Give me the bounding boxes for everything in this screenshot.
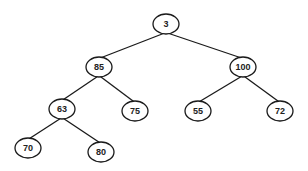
node-label: 55 bbox=[193, 106, 203, 116]
node-label: 3 bbox=[163, 19, 168, 29]
edge-n3-n85 bbox=[99, 33, 166, 59]
tree-node: 72 bbox=[267, 101, 293, 121]
edge-n63-n70 bbox=[28, 118, 62, 140]
edges-layer bbox=[28, 33, 280, 144]
edge-n63-n80 bbox=[62, 118, 101, 144]
tree-node: 55 bbox=[185, 101, 211, 121]
tree-node: 70 bbox=[15, 138, 41, 158]
binary-tree-diagram: 385100637555727080 bbox=[0, 0, 308, 171]
tree-node: 63 bbox=[49, 99, 75, 119]
node-label: 72 bbox=[275, 106, 285, 116]
edge-n85-n63 bbox=[62, 76, 99, 101]
tree-node: 75 bbox=[122, 101, 148, 121]
node-label: 70 bbox=[23, 143, 33, 153]
edge-n100-n72 bbox=[243, 76, 280, 103]
node-label: 63 bbox=[57, 104, 67, 114]
tree-node: 3 bbox=[153, 14, 179, 34]
tree-node: 80 bbox=[88, 142, 114, 162]
edge-n100-n55 bbox=[198, 76, 243, 103]
edge-n3-n100 bbox=[166, 33, 243, 59]
tree-node: 100 bbox=[230, 57, 256, 77]
tree-node: 85 bbox=[86, 57, 112, 77]
node-label: 85 bbox=[94, 62, 104, 72]
node-label: 80 bbox=[96, 147, 106, 157]
node-label: 100 bbox=[235, 62, 250, 72]
node-label: 75 bbox=[130, 106, 140, 116]
edge-n85-n75 bbox=[99, 76, 135, 103]
nodes-layer: 385100637555727080 bbox=[15, 14, 293, 162]
